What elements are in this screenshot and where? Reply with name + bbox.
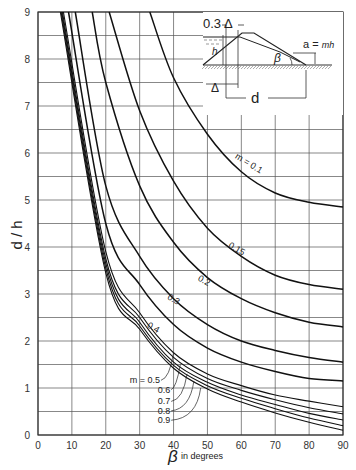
y-tick-label: 0 (24, 430, 30, 441)
y-tick-label: 7 (24, 101, 30, 112)
y-tick-labels: 0123456789 (24, 7, 30, 441)
inset-label-0-3-delta: 0.3 Δ (203, 16, 233, 31)
curve-label: 0.6 (158, 385, 171, 395)
chart: 0.3 Δ h Δ d β a = mh m = 0.10.150.20.30.… (0, 0, 356, 470)
y-tick-label: 3 (24, 289, 30, 300)
x-tick-label: 20 (100, 440, 112, 451)
x-axis-label-symbol: β (167, 447, 178, 466)
x-tick-label: 10 (66, 440, 78, 451)
x-tick-label: 90 (337, 440, 349, 451)
curve-label: m = 0.1 (233, 151, 264, 176)
y-tick-label: 5 (24, 195, 30, 206)
y-tick-label: 1 (24, 383, 30, 394)
y-tick-label: 9 (24, 7, 30, 18)
inset-label-delta: Δ (211, 81, 219, 95)
inset-label-h: h (212, 46, 218, 57)
x-tick-label: 60 (236, 440, 248, 451)
curve-label: 0.9 (158, 415, 171, 425)
x-tick-label: 0 (35, 440, 41, 451)
x-tick-label: 50 (202, 440, 214, 451)
x-axis-label-unit: in degrees (181, 451, 224, 461)
y-tick-label: 6 (24, 148, 30, 159)
curve-label: m = 0.5 (130, 375, 160, 385)
x-tick-label: 30 (134, 440, 146, 451)
x-tick-label: 70 (270, 440, 282, 451)
leader-line (171, 388, 201, 420)
inset-label-a-mh: a = mh (303, 38, 334, 50)
inset-label-d: d (251, 89, 259, 106)
curve-label: 0.15 (227, 240, 247, 257)
leader-line (171, 365, 180, 390)
y-axis-label: d / h (8, 220, 25, 249)
y-tick-label: 8 (24, 54, 30, 65)
y-tick-label: 2 (24, 336, 30, 347)
inset-diagram: 0.3 Δ h Δ d β a = mh (202, 12, 343, 115)
inset-label-beta: β (273, 51, 281, 65)
x-tick-label: 80 (304, 440, 316, 451)
y-tick-label: 4 (24, 242, 30, 253)
curve-label: 0.2 (196, 273, 212, 288)
x-tick-labels: 0102030405060708090 (35, 440, 349, 451)
